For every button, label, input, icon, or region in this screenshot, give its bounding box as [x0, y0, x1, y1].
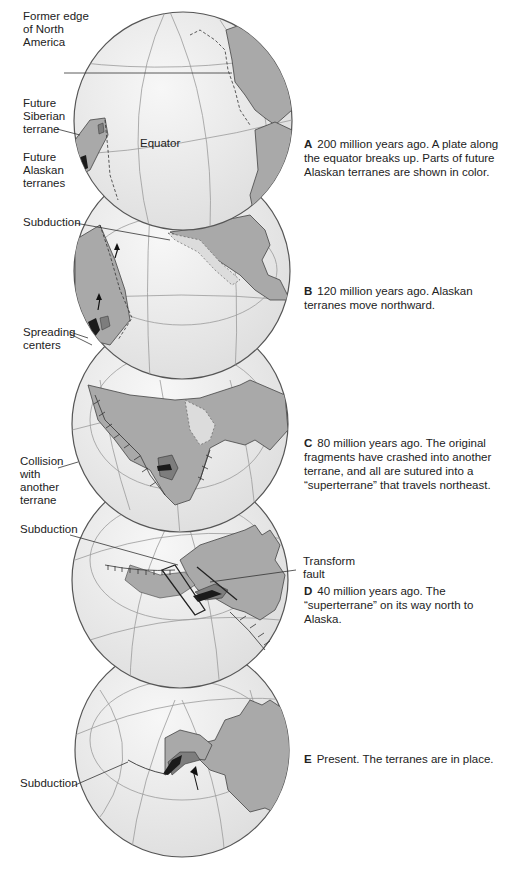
label-spreading-centers: Spreading centers [23, 326, 75, 352]
label-subduction-d: Subduction [20, 523, 78, 536]
caption-b-text: 120 million years ago. Alaskan terranes … [304, 285, 473, 311]
caption-a-text: 200 million years ago. A plate along the… [304, 138, 498, 178]
caption-d: D40 million years ago. The “superterrane… [304, 584, 509, 626]
label-future-siberian-terrane: Future Siberian terrane [23, 97, 65, 136]
caption-d-text: 40 million years ago. The “superterrane”… [304, 585, 473, 625]
panel-letter-c: C [304, 437, 312, 449]
label-transform-fault: Transform fault [303, 555, 355, 581]
label-subduction-e: Subduction [20, 777, 78, 790]
label-former-edge: Former edge of North America [23, 10, 89, 49]
caption-b: B120 million years ago. Alaskan terranes… [304, 284, 509, 312]
panel-letter-b: B [304, 285, 312, 297]
caption-e: EPresent. The terranes are in place. [304, 752, 509, 766]
panel-letter-e: E [304, 753, 312, 765]
caption-c-text: 80 million years ago. The original fragm… [304, 437, 491, 491]
label-future-alaskan-terranes: Future Alaskan terranes [23, 151, 65, 190]
label-equator: Equator [140, 137, 180, 150]
caption-c: C80 million years ago. The original frag… [304, 436, 509, 492]
label-subduction-b: Subduction [23, 216, 81, 229]
globe-a [57, 12, 292, 230]
panel-letter-d: D [304, 585, 312, 597]
panel-letter-a: A [304, 138, 312, 150]
caption-a: A200 million years ago. A plate along th… [304, 137, 509, 179]
caption-e-text: Present. The terranes are in place. [317, 753, 494, 765]
label-collision: Collision with another terrane [20, 455, 63, 507]
